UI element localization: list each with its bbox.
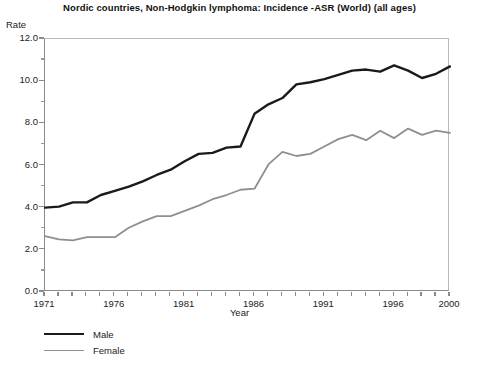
x-minor-tick <box>337 292 338 296</box>
y-tick-mark <box>39 248 44 249</box>
legend-swatch-female <box>44 350 84 351</box>
x-axis-label: Year <box>0 307 479 318</box>
x-minor-tick <box>85 292 86 296</box>
x-minor-tick <box>71 292 72 296</box>
x-minor-tick <box>127 292 128 296</box>
y-minor-tick <box>41 269 44 270</box>
x-minor-tick <box>393 292 394 296</box>
y-tick-mark <box>39 122 44 123</box>
x-minor-tick <box>239 292 240 296</box>
x-minor-tick <box>323 292 324 296</box>
x-minor-tick <box>211 292 212 296</box>
y-tick-mark <box>39 164 44 165</box>
x-minor-tick <box>434 292 435 296</box>
x-minor-tick <box>379 292 380 296</box>
legend: Male Female <box>44 326 125 358</box>
x-minor-tick <box>267 292 268 296</box>
y-tick-mark <box>39 206 44 207</box>
y-tick-label: 0.0 <box>0 285 38 296</box>
y-tick-mark <box>39 80 44 81</box>
x-minor-tick <box>448 292 449 296</box>
series-line-female <box>45 129 450 241</box>
y-axis-label: Rate <box>6 19 26 30</box>
y-tick-label: 12.0 <box>0 32 38 43</box>
x-minor-tick <box>141 292 142 296</box>
y-tick-mark <box>39 37 44 38</box>
x-minor-tick <box>253 292 254 296</box>
x-minor-tick <box>295 292 296 296</box>
x-minor-tick <box>225 292 226 296</box>
x-minor-tick <box>57 292 58 296</box>
legend-item-female: Female <box>44 342 125 358</box>
x-minor-tick <box>420 292 421 296</box>
x-minor-tick <box>365 292 366 296</box>
x-minor-tick <box>183 292 184 296</box>
x-minor-tick <box>99 292 100 296</box>
y-tick-label: 2.0 <box>0 243 38 254</box>
x-minor-tick <box>407 292 408 296</box>
legend-label-female: Female <box>93 345 125 356</box>
x-minor-tick <box>351 292 352 296</box>
chart-title: Nordic countries, Non-Hodgkin lymphoma: … <box>0 2 479 13</box>
y-tick-label: 8.0 <box>0 116 38 127</box>
x-minor-tick <box>309 292 310 296</box>
y-minor-tick <box>41 185 44 186</box>
legend-item-male: Male <box>44 326 125 342</box>
series-canvas <box>44 38 451 293</box>
y-tick-label: 6.0 <box>0 159 38 170</box>
x-minor-tick <box>155 292 156 296</box>
x-minor-tick <box>281 292 282 296</box>
x-minor-tick <box>43 292 44 296</box>
x-minor-tick <box>113 292 114 296</box>
chart-page: Nordic countries, Non-Hodgkin lymphoma: … <box>0 0 479 367</box>
y-minor-tick <box>41 58 44 59</box>
x-minor-tick <box>169 292 170 296</box>
plot-area <box>44 38 449 291</box>
legend-label-male: Male <box>93 329 114 340</box>
y-minor-tick <box>41 101 44 102</box>
y-tick-label: 4.0 <box>0 201 38 212</box>
y-minor-tick <box>41 143 44 144</box>
legend-swatch-male <box>44 333 84 335</box>
y-minor-tick <box>41 227 44 228</box>
y-tick-label: 10.0 <box>0 74 38 85</box>
x-minor-tick <box>197 292 198 296</box>
footnote-text <box>16 360 463 367</box>
